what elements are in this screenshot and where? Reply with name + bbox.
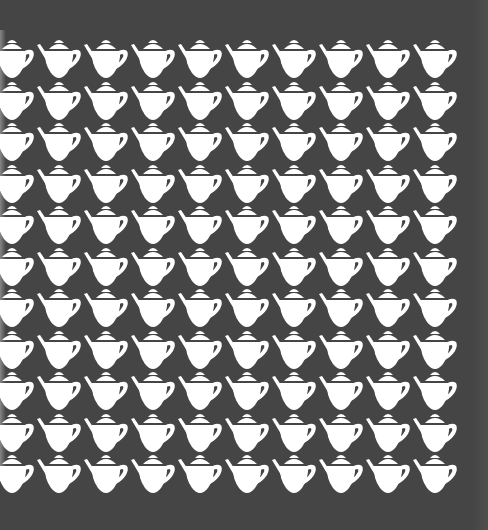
- teapot-icon: [35, 452, 83, 494]
- teapot-icon: [411, 120, 459, 162]
- teapot-icon: [0, 203, 36, 245]
- teapot-icon: [364, 411, 412, 453]
- teapot-icon: [270, 79, 318, 121]
- teapot-icon: [411, 452, 459, 494]
- teapot-icon: [223, 203, 271, 245]
- teapot-icon: [364, 245, 412, 287]
- teapot-icon: [82, 452, 130, 494]
- teapot-icon: [35, 245, 83, 287]
- right-edge-shade: [472, 0, 488, 530]
- teapot-icon: [270, 162, 318, 204]
- teapot-icon: [82, 411, 130, 453]
- teapot-icon: [223, 37, 271, 79]
- teapot-icon: [82, 369, 130, 411]
- teapot-icon: [223, 411, 271, 453]
- teapot-icon: [176, 328, 224, 370]
- teapot-icon: [270, 286, 318, 328]
- teapot-icon: [317, 286, 365, 328]
- teapot-icon: [223, 79, 271, 121]
- teapot-icon: [0, 328, 36, 370]
- teapot-icon: [317, 162, 365, 204]
- teapot-icon: [35, 286, 83, 328]
- teapot-icon: [364, 79, 412, 121]
- teapot-icon: [35, 37, 83, 79]
- teapot-icon: [176, 286, 224, 328]
- teapot-icon: [364, 203, 412, 245]
- teapot-icon: [82, 37, 130, 79]
- teapot-icon: [411, 369, 459, 411]
- teapot-icon: [411, 79, 459, 121]
- teapot-icon: [223, 369, 271, 411]
- teapot-icon: [270, 120, 318, 162]
- teapot-icon: [176, 37, 224, 79]
- teapot-icon: [82, 245, 130, 287]
- teapot-icon: [82, 79, 130, 121]
- teapot-icon: [129, 452, 177, 494]
- teapot-icon: [0, 452, 36, 494]
- teapot-icon: [317, 37, 365, 79]
- teapot-icon: [270, 328, 318, 370]
- teapot-icon: [35, 79, 83, 121]
- teapot-icon: [364, 162, 412, 204]
- teapot-icon: [270, 452, 318, 494]
- teapot-icon: [176, 245, 224, 287]
- teapot-icon: [364, 286, 412, 328]
- teapot-icon: [364, 452, 412, 494]
- teapot-icon: [129, 162, 177, 204]
- teapot-icon: [82, 120, 130, 162]
- teapot-icon: [82, 203, 130, 245]
- teapot-icon: [129, 286, 177, 328]
- teapot-icon: [176, 411, 224, 453]
- teapot-icon: [35, 203, 83, 245]
- teapot-icon: [223, 245, 271, 287]
- teapot-icon: [129, 245, 177, 287]
- teapot-icon: [270, 245, 318, 287]
- teapot-icon: [270, 203, 318, 245]
- teapot-icon: [364, 369, 412, 411]
- teapot-icon: [317, 79, 365, 121]
- teapot-icon: [35, 369, 83, 411]
- teapot-icon: [35, 162, 83, 204]
- teapot-icon: [270, 411, 318, 453]
- teapot-icon: [0, 120, 36, 162]
- teapot-icon: [317, 452, 365, 494]
- teapot-icon: [317, 328, 365, 370]
- teapot-icon: [82, 328, 130, 370]
- teapot-icon: [129, 411, 177, 453]
- teapot-icon: [411, 411, 459, 453]
- teapot-icon: [35, 328, 83, 370]
- teapot-icon: [0, 79, 36, 121]
- teapot-icon: [35, 411, 83, 453]
- teapot-icon: [411, 286, 459, 328]
- teapot-icon: [317, 411, 365, 453]
- teapot-icon: [82, 286, 130, 328]
- teapot-icon: [317, 245, 365, 287]
- teapot-icon: [35, 120, 83, 162]
- teapot-icon: [0, 286, 36, 328]
- teapot-icon: [129, 203, 177, 245]
- teapot-icon: [129, 369, 177, 411]
- teapot-icon: [129, 328, 177, 370]
- teapot-icon: [176, 120, 224, 162]
- teapot-icon: [0, 37, 36, 79]
- teapot-icon: [223, 452, 271, 494]
- teapot-icon: [0, 162, 36, 204]
- teapot-icon: [270, 37, 318, 79]
- teapot-icon: [223, 286, 271, 328]
- teapot-icon: [176, 79, 224, 121]
- teapot-icon: [317, 120, 365, 162]
- teapot-icon: [176, 162, 224, 204]
- teapot-icon: [223, 120, 271, 162]
- teapot-icon: [364, 328, 412, 370]
- teapot-icon: [223, 162, 271, 204]
- teapot-icon: [0, 411, 36, 453]
- teapot-icon: [411, 203, 459, 245]
- teapot-icon: [411, 245, 459, 287]
- teapot-icon: [317, 203, 365, 245]
- teapot-icon: [364, 120, 412, 162]
- teapot-icon: [176, 203, 224, 245]
- teapot-icon: [82, 162, 130, 204]
- teapot-icon: [129, 37, 177, 79]
- teapot-icon: [129, 120, 177, 162]
- pattern-canvas: [0, 0, 488, 530]
